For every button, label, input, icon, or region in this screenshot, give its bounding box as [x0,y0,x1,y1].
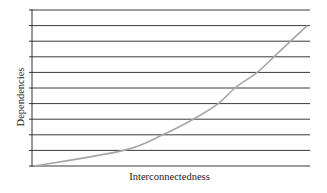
chart-plot-area [0,0,327,193]
dependencies-curve [35,26,307,166]
x-axis-label: Interconnectedness [0,171,327,182]
y-axis-label: Dependencies [15,68,26,127]
horizontal-gridlines [32,10,310,166]
x-axis-label-text: Interconnectedness [129,171,209,182]
